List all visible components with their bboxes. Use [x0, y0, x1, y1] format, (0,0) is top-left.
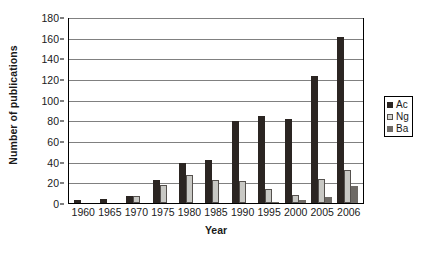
bar-Ac-1965	[100, 199, 107, 203]
y-tick-80: 80	[47, 115, 59, 127]
y-tick-mark-100	[60, 100, 64, 101]
bar-group-1960	[71, 19, 97, 203]
y-tick-mark-180	[60, 18, 64, 19]
chart-legend: AcNgBa	[384, 96, 413, 137]
x-tick-1980: 1980	[176, 206, 203, 222]
bar-Ng-1980	[186, 175, 193, 203]
bar-Ng-1975	[160, 185, 167, 203]
legend-swatch-Ng-icon	[387, 114, 393, 120]
bar-Ac-1995	[258, 116, 265, 203]
bar-Ba-2006	[351, 186, 358, 203]
x-tick-2005: 2005	[309, 206, 336, 222]
bar-Ac-1960	[74, 200, 81, 203]
x-tick-2006: 2006	[335, 206, 362, 222]
bar-group-2006	[335, 19, 361, 203]
bar-group-2005	[308, 19, 334, 203]
x-tick-1970: 1970	[123, 206, 150, 222]
bar-Ac-1975	[153, 180, 160, 203]
bar-Ac-1990	[232, 121, 239, 203]
y-axis-title: Number of publications	[2, 0, 24, 210]
x-tick-1985: 1985	[203, 206, 230, 222]
y-tick-mark-20	[60, 183, 64, 184]
y-tick-mark-0	[60, 204, 64, 205]
y-tick-100: 100	[41, 95, 59, 107]
bar-group-1995	[256, 19, 282, 203]
bars-layer	[69, 19, 363, 203]
x-axis-tick-labels: 1960196519701975198019851990199520002005…	[68, 206, 364, 222]
y-tick-mark-160	[60, 38, 64, 39]
x-tick-2000: 2000	[282, 206, 309, 222]
x-tick-1990: 1990	[229, 206, 256, 222]
y-tick-mark-120	[60, 80, 64, 81]
x-axis-title: Year	[68, 224, 364, 236]
bar-group-1965	[97, 19, 123, 203]
bar-Ac-2005	[311, 76, 318, 203]
y-tick-0: 0	[53, 198, 59, 210]
bar-Ac-1980	[179, 163, 186, 203]
bar-Ac-2006	[337, 37, 344, 203]
y-tick-160: 160	[41, 33, 59, 45]
y-axis-tick-labels: 020406080100120140160180	[24, 18, 64, 204]
legend-item-Ng[interactable]: Ng	[387, 111, 409, 122]
bar-group-1970	[124, 19, 150, 203]
bar-chart: Number of publications 02040608010012014…	[0, 0, 432, 254]
y-axis-title-label: Number of publications	[7, 45, 19, 164]
bar-Ba-2005	[325, 197, 332, 203]
bar-Ac-1985	[205, 160, 212, 203]
y-tick-180: 180	[41, 12, 59, 24]
bar-Ng-2005	[318, 179, 325, 203]
bar-Ng-2006	[344, 170, 351, 203]
legend-label-Ba: Ba	[396, 123, 408, 134]
y-tick-140: 140	[41, 53, 59, 65]
plot-area	[68, 18, 364, 204]
bar-Ng-1990	[239, 181, 246, 203]
x-tick-1995: 1995	[256, 206, 283, 222]
bar-group-1980	[176, 19, 202, 203]
bar-Ng-1985	[212, 180, 219, 203]
legend-swatch-Ba-icon	[387, 126, 393, 132]
bar-group-2000	[282, 19, 308, 203]
bar-group-1975	[150, 19, 176, 203]
bar-Ng-1970	[133, 196, 140, 203]
y-tick-mark-80	[60, 121, 64, 122]
bar-Ba-1995	[272, 202, 279, 204]
y-tick-40: 40	[47, 157, 59, 169]
legend-label-Ac: Ac	[396, 99, 408, 110]
bar-Ba-2000	[299, 200, 306, 203]
bar-Ac-1970	[126, 196, 133, 203]
x-tick-1960: 1960	[70, 206, 97, 222]
y-tick-mark-40	[60, 162, 64, 163]
bar-Ac-2000	[285, 119, 292, 203]
bar-group-1985	[203, 19, 229, 203]
legend-label-Ng: Ng	[396, 111, 409, 122]
bar-Ng-1995	[265, 189, 272, 203]
bar-group-1990	[229, 19, 255, 203]
bar-Ng-2000	[292, 195, 299, 203]
y-tick-60: 60	[47, 136, 59, 148]
legend-item-Ba[interactable]: Ba	[387, 123, 409, 134]
y-tick-mark-60	[60, 142, 64, 143]
x-tick-1975: 1975	[150, 206, 177, 222]
y-tick-mark-140	[60, 59, 64, 60]
legend-item-Ac[interactable]: Ac	[387, 99, 409, 110]
x-tick-1965: 1965	[97, 206, 124, 222]
legend-swatch-Ac-icon	[387, 102, 393, 108]
y-tick-120: 120	[41, 74, 59, 86]
y-tick-20: 20	[47, 177, 59, 189]
